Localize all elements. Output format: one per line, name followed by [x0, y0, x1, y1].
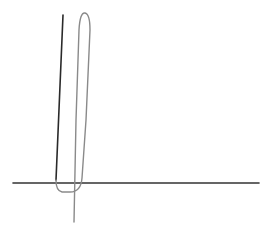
- straight-dark-line: [56, 15, 63, 180]
- diagram-canvas: [0, 0, 275, 242]
